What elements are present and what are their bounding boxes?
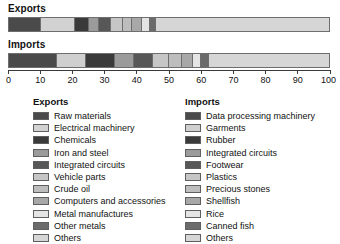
exports-legend-label: Iron and steel (54, 148, 109, 158)
exports-legend-swatch-4 (33, 161, 49, 169)
imports-legend-label: Data processing machinery (206, 111, 315, 121)
imports-segment-0 (9, 54, 57, 67)
imports-segment-8 (193, 54, 201, 67)
exports-segment-2 (75, 18, 89, 31)
imports-legend-item: Precious stones (185, 183, 340, 195)
imports-legend-label: Rice (206, 209, 224, 219)
imports-segment-1 (57, 54, 86, 67)
axis-tick-70 (233, 70, 234, 74)
imports-legend-swatch-2 (185, 136, 201, 144)
imports-legend-swatch-6 (185, 185, 201, 193)
imports-segment-2 (86, 54, 115, 67)
legend-imports-heading: Imports (185, 96, 340, 107)
imports-segment-4 (134, 54, 153, 67)
axis-tick-40 (136, 70, 137, 74)
exports-segment-0 (9, 18, 41, 31)
exports-legend-label: Computers and accessories (54, 196, 166, 206)
imports-segment-3 (115, 54, 134, 67)
exports-legend-swatch-3 (33, 149, 49, 157)
axis-label-50: 50 (164, 75, 174, 85)
exports-stacked-bar (8, 17, 330, 32)
axis-tick-100 (330, 70, 331, 74)
legend-exports-items: Raw materialsElectrical machineryChemica… (33, 110, 183, 244)
imports-segment-7 (182, 54, 193, 67)
exports-legend-item: Crude oil (33, 183, 183, 195)
axis-label-30: 30 (100, 75, 110, 85)
exports-legend-item: Other metals (33, 220, 183, 232)
axis-tick-30 (104, 70, 105, 74)
imports-legend-swatch-7 (185, 197, 201, 205)
exports-segment-3 (89, 18, 99, 31)
imports-bar-title: Imports (8, 39, 45, 50)
exports-legend-label: Raw materials (54, 111, 111, 121)
exports-legend-label: Crude oil (54, 184, 90, 194)
exports-segment-10 (156, 18, 329, 31)
imports-legend-item: Shellfish (185, 195, 340, 207)
axis-label-100: 100 (321, 75, 336, 85)
exports-legend-label: Others (54, 233, 81, 243)
exports-legend-label: Electrical machinery (54, 123, 135, 133)
exports-legend-swatch-5 (33, 173, 49, 181)
imports-legend-swatch-3 (185, 149, 201, 157)
legend-imports: Imports Data processing machineryGarment… (185, 96, 340, 244)
imports-legend-item: Data processing machinery (185, 110, 340, 122)
exports-legend-item: Others (33, 232, 183, 244)
exports-legend-item: Electrical machinery (33, 122, 183, 134)
exports-legend-swatch-0 (33, 112, 49, 120)
exports-legend-swatch-2 (33, 136, 49, 144)
exports-legend-item: Chemicals (33, 134, 183, 146)
imports-legend-swatch-10 (185, 234, 201, 242)
axis-tick-0 (8, 70, 9, 74)
imports-segment-10 (209, 54, 329, 67)
imports-legend-item: Footwear (185, 159, 340, 171)
imports-legend-swatch-1 (185, 124, 201, 132)
exports-legend-label: Vehicle parts (54, 172, 106, 182)
axis-label-70: 70 (228, 75, 238, 85)
imports-legend-item: Integrated circuits (185, 147, 340, 159)
imports-legend-item: Canned fish (185, 220, 340, 232)
exports-bar-title: Exports (8, 3, 46, 14)
imports-legend-label: Precious stones (206, 184, 270, 194)
axis-label-20: 20 (67, 75, 77, 85)
imports-legend-swatch-5 (185, 173, 201, 181)
exports-legend-swatch-6 (33, 185, 49, 193)
imports-stacked-bar (8, 53, 330, 68)
exports-segment-5 (111, 18, 122, 31)
imports-legend-label: Others (206, 233, 233, 243)
exports-legend-swatch-7 (33, 197, 49, 205)
axis-label-0: 0 (6, 75, 11, 85)
imports-legend-label: Shellfish (206, 196, 240, 206)
imports-segment-5 (153, 54, 169, 67)
imports-legend-swatch-4 (185, 161, 201, 169)
axis-tick-90 (297, 70, 298, 74)
exports-legend-swatch-1 (33, 124, 49, 132)
legend-imports-items: Data processing machineryGarmentsRubberI… (185, 110, 340, 244)
axis-label-80: 80 (261, 75, 271, 85)
exports-legend-item: Metal manufactures (33, 208, 183, 220)
exports-legend-swatch-8 (33, 210, 49, 218)
imports-legend-label: Plastics (206, 172, 237, 182)
exports-legend-label: Integrated circuits (54, 160, 125, 170)
imports-legend-item: Garments (185, 122, 340, 134)
axis-label-10: 10 (35, 75, 45, 85)
exports-legend-item: Vehicle parts (33, 171, 183, 183)
exports-legend-swatch-9 (33, 222, 49, 230)
imports-segment-6 (169, 54, 182, 67)
legend-exports: Exports Raw materialsElectrical machiner… (33, 96, 183, 244)
exports-legend-label: Chemicals (54, 135, 96, 145)
exports-legend-label: Other metals (54, 221, 106, 231)
axis-tick-50 (169, 70, 170, 74)
exports-legend-item: Raw materials (33, 110, 183, 122)
axis-tick-20 (72, 70, 73, 74)
exports-segment-4 (99, 18, 112, 31)
imports-legend-label: Canned fish (206, 221, 254, 231)
exports-segment-6 (123, 18, 133, 31)
imports-legend-item: Rice (185, 208, 340, 220)
imports-legend-item: Rubber (185, 134, 340, 146)
exports-legend-item: Iron and steel (33, 147, 183, 159)
imports-legend-label: Rubber (206, 135, 236, 145)
exports-segment-1 (41, 18, 75, 31)
imports-legend-label: Integrated circuits (206, 148, 277, 158)
imports-segment-9 (201, 54, 209, 67)
